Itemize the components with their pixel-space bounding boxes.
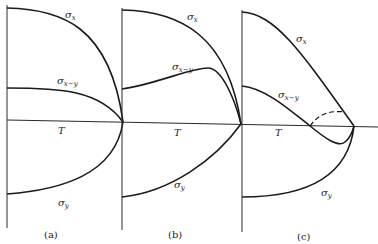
- panel-b-sigma-x-label: σx: [187, 11, 198, 24]
- panel-b-caption: (b): [168, 229, 182, 240]
- panel-b-sigma-y-label: σy: [174, 179, 186, 192]
- panel-c-sigma-xy-dashed-curve: [310, 112, 345, 126]
- panel-b-t-label: T: [174, 127, 182, 138]
- panel-a: σx σx−y σy T (a): [7, 5, 123, 240]
- panel-a-sigma-y-label: σy: [58, 197, 70, 210]
- panel-c-caption: (c): [297, 231, 311, 242]
- panel-a-t-label: T: [58, 125, 66, 136]
- panel-c-sigma-x-curve: [242, 12, 354, 126]
- panel-b-sigma-xy-curve: [122, 68, 241, 124]
- panel-a-sigma-xy-curve: [7, 88, 123, 122]
- panel-a-sigma-y-curve: [7, 122, 123, 194]
- panel-a-sigma-xy-label: σx−y: [57, 75, 79, 88]
- panel-b-sigma-xy-label: σx−y: [172, 61, 194, 74]
- panel-c-sigma-y-label: σy: [321, 187, 333, 200]
- panel-c-sigma-xy-label: σx−y: [278, 89, 300, 102]
- stress-diagram: σx σx−y σy T (a) σx σx−y σy T (b) σx σx−…: [0, 0, 378, 244]
- panel-c-sigma-x-label: σx: [296, 33, 307, 46]
- panel-c-sigma-y-curve: [242, 126, 354, 197]
- panel-a-caption: (a): [44, 229, 58, 240]
- panel-c-t-label: T: [275, 127, 283, 138]
